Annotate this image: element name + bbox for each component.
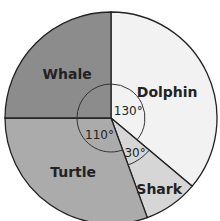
pie-slice-whale (5, 12, 111, 118)
slice-label-dolphin: Dolphin (137, 84, 198, 100)
slice-label-turtle: Turtle (50, 164, 96, 180)
slice-label-whale: Whale (43, 66, 92, 82)
angle-label-turtle: 110° (85, 128, 114, 142)
angle-label-dolphin: 130° (114, 104, 143, 118)
pie-chart: Dolphin130°Shark30°Turtle110°Whale (0, 0, 220, 221)
angle-label-shark: 30° (124, 146, 145, 160)
slice-label-shark: Shark (136, 181, 182, 197)
